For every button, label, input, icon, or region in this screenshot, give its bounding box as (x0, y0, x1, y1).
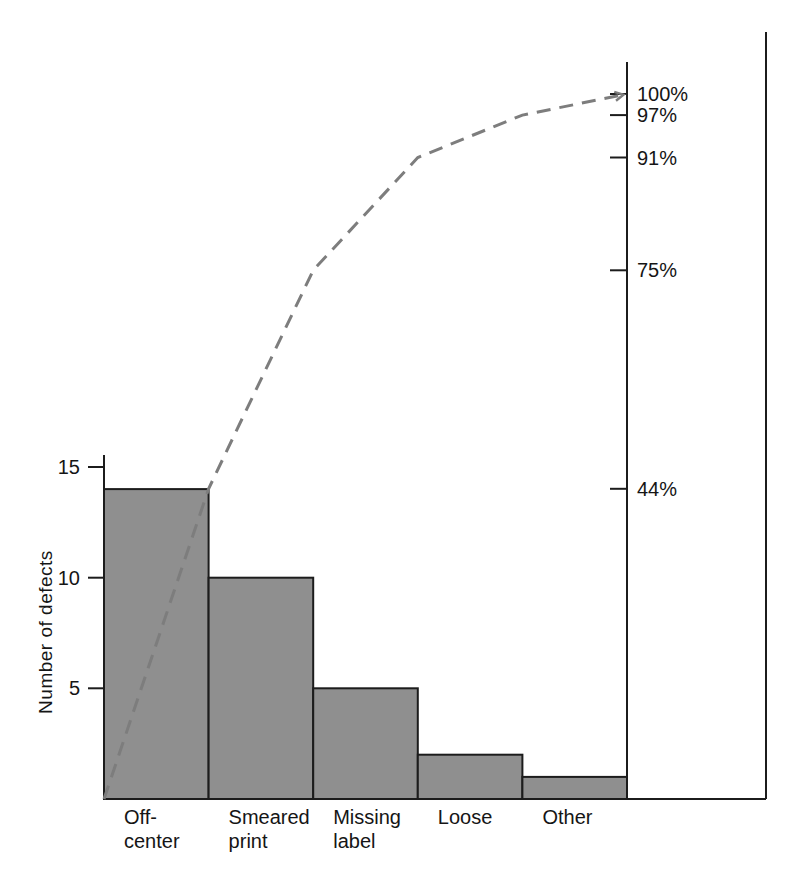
category-label-missing-label: Missinglabel (333, 806, 401, 852)
bar-other (522, 777, 627, 799)
bar-loose (418, 755, 523, 799)
percent-tick-label-97: 97% (637, 104, 677, 126)
y-tick-label-5: 5 (69, 677, 80, 699)
y-tick-label-15: 15 (58, 456, 80, 478)
percent-tick-label-100: 100% (637, 83, 688, 105)
pareto-chart-canvas: 5101544%75%91%97%100%Off-centerSmearedpr… (0, 0, 810, 893)
category-label-loose: Loose (438, 806, 493, 828)
percent-tick-label-91: 91% (637, 147, 677, 169)
category-label-other: Other (542, 806, 592, 828)
category-label-smeared-print: Smearedprint (229, 806, 310, 852)
y-tick-label-10: 10 (58, 567, 80, 589)
pareto-chart-figure: 5101544%75%91%97%100%Off-centerSmearedpr… (0, 0, 810, 893)
bar-missing-label (313, 688, 418, 799)
bar-smeared-print (209, 578, 314, 799)
percent-tick-label-44: 44% (637, 478, 677, 500)
percent-tick-label-75: 75% (637, 259, 677, 281)
category-label-off-center: Off-center (124, 806, 180, 852)
y-axis-title: Number of defects (35, 550, 57, 714)
